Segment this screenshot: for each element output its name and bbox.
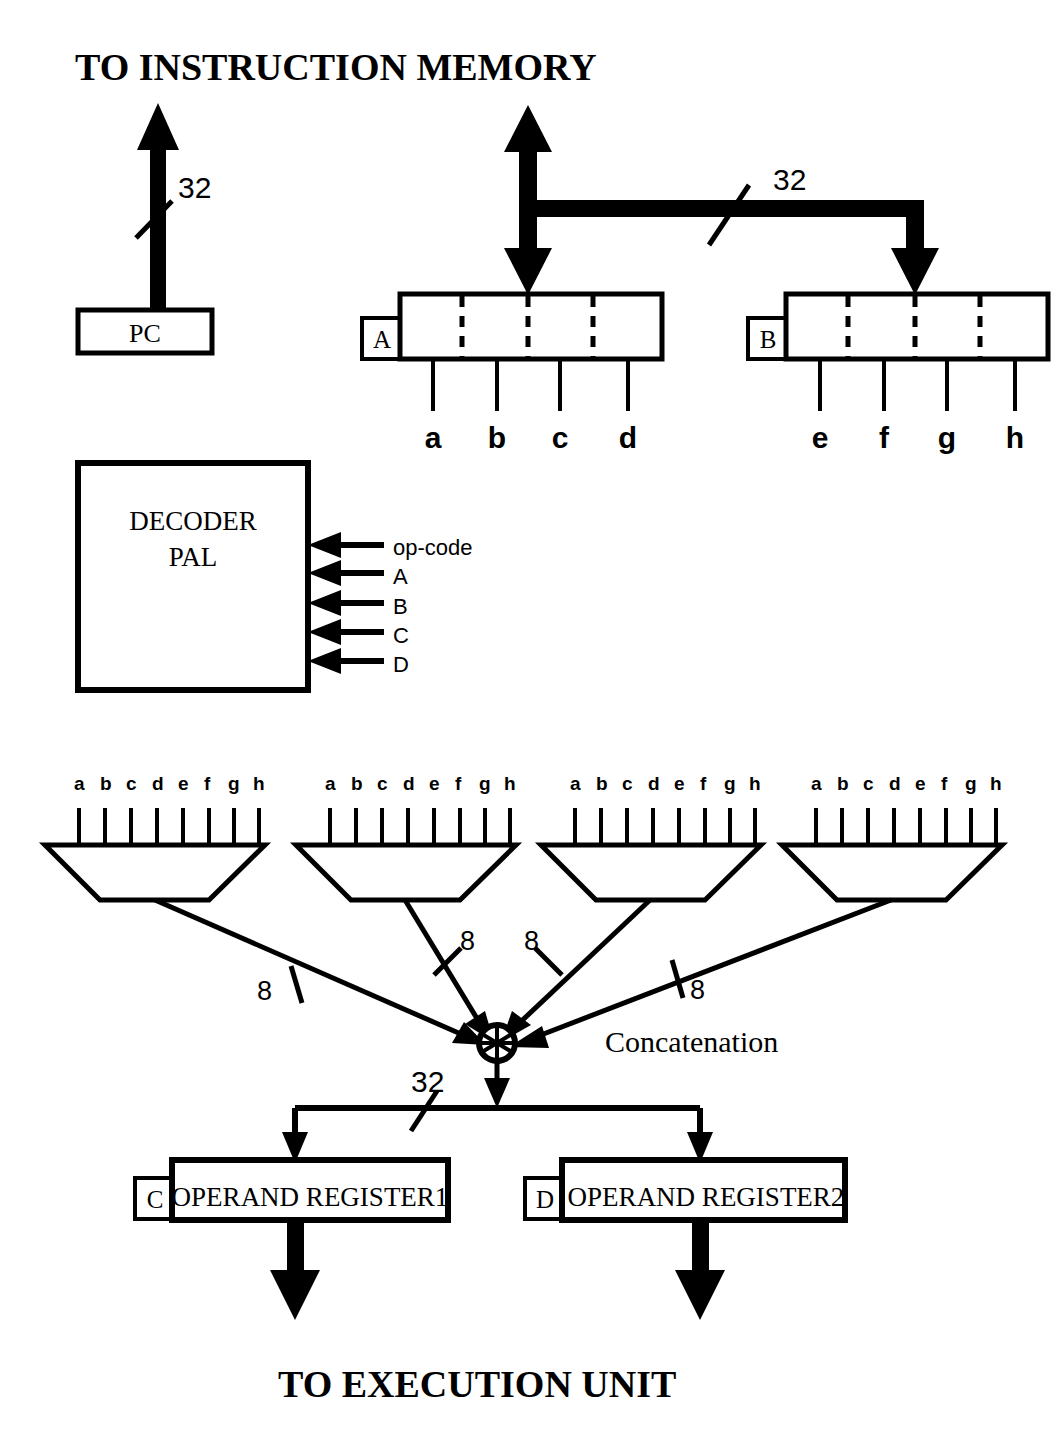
register-a-group: A a b c d (362, 294, 662, 454)
multiplexer-3-group: a b c d e f g h (541, 773, 761, 900)
instruction-bus-horizontal (528, 200, 924, 217)
mux-1-input-label-7: h (253, 773, 265, 794)
concatenation-node-group: Concatenation (479, 1025, 778, 1108)
mux-2-input-label-0: a (325, 773, 336, 794)
mux-3-output-line (512, 900, 650, 1030)
mux-2-input-label-7: h (504, 773, 516, 794)
register-a-box (400, 294, 662, 359)
decoder-input-4: D (308, 648, 409, 677)
multiplexer-4-group: a b c d e f g h (782, 773, 1002, 900)
mux-2-input-label-5: f (455, 773, 462, 794)
mux-3-input-label-5: f (700, 773, 707, 794)
mux-4-input-label-4: e (915, 773, 926, 794)
mux-2-output-width-label: 8 (460, 926, 475, 956)
operand-register-2-tag-label: D (536, 1186, 554, 1213)
decoder-input-arrowhead-2 (308, 590, 341, 616)
mux-4-input-label-3: d (889, 773, 901, 794)
mux-1-input-label-2: c (126, 773, 137, 794)
mux-4-input-label-1: b (837, 773, 849, 794)
register-b-group: B e f g h (748, 294, 1048, 454)
mux-1-input-label-4: e (178, 773, 189, 794)
pc-group: 32 PC (78, 103, 212, 353)
multiplexer-1-group: a b c d e f g h (45, 773, 265, 900)
pc-bus-width-label: 32 (178, 171, 211, 204)
decoder-input-arrowhead-0 (308, 532, 341, 558)
pc-bus-arrow (137, 103, 179, 320)
mux-1-input-label-3: d (152, 773, 164, 794)
mux-2-input-label-4: e (429, 773, 440, 794)
instruction-bus-down-arrowhead-a (504, 248, 552, 295)
mux-3-input-label-2: c (622, 773, 633, 794)
decoder-input-label-1: A (393, 564, 408, 589)
operand-register-2-output-shaft (692, 1220, 709, 1278)
decoder-input-label-0: op-code (393, 535, 473, 560)
mux-4-input-label-2: c (863, 773, 874, 794)
mux-2-input-label-6: g (479, 773, 491, 794)
multiplexer-2-group: a b c d e f g h (296, 773, 516, 900)
mux-3-input-label-7: h (749, 773, 761, 794)
register-b-field-label-0: e (812, 421, 829, 454)
operand-register-2-output-arrowhead (675, 1270, 725, 1320)
mux-2-body (296, 845, 516, 900)
register-b-field-label-3: h (1006, 421, 1024, 454)
register-a-field-label-2: c (552, 421, 569, 454)
operand-register-2-group: D OPERAND REGISTER2 (525, 1160, 845, 1320)
operand-register-1-name: OPERAND REGISTER1 (172, 1182, 449, 1212)
register-a-field-label-3: d (619, 421, 637, 454)
decoder-input-arrowhead-1 (308, 560, 341, 586)
mux-4-input-label-7: h (990, 773, 1002, 794)
operand-register-1-tag-label: C (147, 1186, 164, 1213)
mux-2-input-label-1: b (351, 773, 363, 794)
mux-3-input-label-6: g (724, 773, 736, 794)
mux-1-input-label-1: b (100, 773, 112, 794)
page-title-top: TO INSTRUCTION MEMORY (75, 46, 597, 88)
concatenation-label: Concatenation (605, 1025, 778, 1058)
register-b-field-label-1: f (879, 421, 890, 454)
mux-3-input-label-0: a (570, 773, 581, 794)
mux-1-body (45, 845, 265, 900)
mux-4-output-line (528, 900, 891, 1040)
instruction-bus-up-arrowhead (504, 105, 552, 152)
mux-4-input-label-0: a (811, 773, 822, 794)
mux-3-input-label-1: b (596, 773, 608, 794)
page-title-bottom: TO EXECUTION UNIT (278, 1363, 676, 1405)
mux-1-input-label-5: f (204, 773, 211, 794)
register-a-tag-label: A (373, 326, 391, 353)
mux-2-input-label-2: c (377, 773, 388, 794)
mux-1-input-label-0: a (74, 773, 85, 794)
concatenation-output-arrowhead (484, 1078, 510, 1108)
register-b-tag-label: B (760, 326, 777, 353)
mux-1-output-width-label: 8 (257, 976, 272, 1006)
mux-output-lines: 8 8 8 8 (155, 900, 891, 1048)
register-a-field-label-1: b (488, 421, 506, 454)
decoder-input-1: A (308, 560, 408, 589)
instruction-bus-down-arrowhead-b (891, 248, 939, 295)
operand-register-1-output-shaft (287, 1220, 304, 1278)
mux-1-input-label-6: g (228, 773, 240, 794)
decoder-pal-line2: PAL (169, 542, 218, 572)
operand-register-1-group: C OPERAND REGISTER1 (135, 1160, 448, 1320)
operand-register-2-name: OPERAND REGISTER2 (568, 1182, 845, 1212)
datapath-diagram: TO INSTRUCTION MEMORY 32 PC (0, 0, 1061, 1440)
mux-4-output-width-label: 8 (690, 975, 705, 1005)
register-b-field-label-2: g (938, 421, 956, 454)
decoder-input-label-2: B (393, 594, 408, 619)
decoder-pal-line1: DECODER (129, 506, 257, 536)
mux-3-output-width-label: 8 (524, 926, 539, 956)
mux-1-output-line (155, 900, 470, 1038)
mux-3-input-label-3: d (648, 773, 660, 794)
mux-2-input-label-3: d (403, 773, 415, 794)
pc-register-label: PC (129, 319, 161, 348)
decoder-input-arrowhead-3 (308, 619, 341, 645)
mux-3-output-tick (535, 948, 562, 975)
instruction-bus-group: 32 (504, 105, 939, 295)
instruction-bus-width-label: 32 (773, 163, 806, 196)
decoder-input-label-4: D (393, 652, 409, 677)
decoder-input-0: op-code (308, 532, 473, 560)
mux-3-input-label-4: e (674, 773, 685, 794)
decoder-input-label-3: C (393, 623, 409, 648)
operand-bus-width-label: 32 (411, 1065, 444, 1098)
decoder-input-2: B (308, 590, 408, 619)
diagram-canvas: TO INSTRUCTION MEMORY 32 PC (0, 0, 1061, 1440)
operand-register-1-output-arrowhead (270, 1270, 320, 1320)
